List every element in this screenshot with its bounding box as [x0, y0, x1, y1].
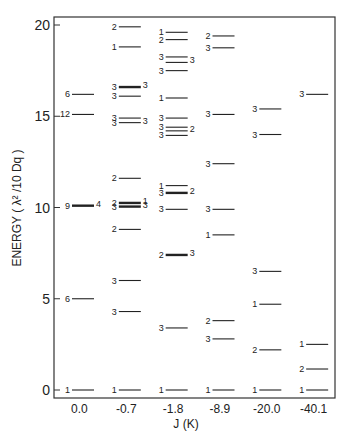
degeneracy-label: 9: [65, 201, 70, 211]
energy-levels: 6129461213333332213323311233313323132323…: [60, 22, 328, 395]
level-column: 233331231: [205, 31, 234, 395]
degeneracy-label: 3: [159, 204, 164, 214]
degeneracy-label: 1: [159, 385, 164, 395]
degeneracy-label: 1: [112, 42, 117, 52]
degeneracy-label: 3: [159, 66, 164, 76]
degeneracy-label: 1: [159, 93, 164, 103]
degeneracy-label: 2: [252, 345, 257, 355]
degeneracy-label: 3: [112, 276, 117, 286]
degeneracy-label: 3: [190, 55, 195, 65]
degeneracy-label: 3: [190, 248, 195, 258]
energy-level-chart: 05101520 6129461213333332213323311233313…: [0, 0, 350, 442]
x-tick-label: -1.8: [163, 402, 184, 416]
degeneracy-label: 3: [205, 204, 210, 214]
degeneracy-label: 2: [112, 173, 117, 183]
degeneracy-label: 2: [190, 186, 195, 196]
degeneracy-label: 3: [252, 130, 257, 140]
degeneracy-label: 3: [159, 188, 164, 198]
degeneracy-label: 6: [65, 89, 70, 99]
degeneracy-label: 3: [112, 202, 117, 212]
x-axis-label: J (K): [173, 417, 198, 431]
degeneracy-label: 3: [112, 91, 117, 101]
y-tick-label: 10: [34, 200, 50, 216]
x-tick-label: -8.9: [210, 402, 231, 416]
degeneracy-label: 3: [205, 334, 210, 344]
degeneracy-label: 2: [190, 124, 195, 134]
degeneracy-label: 2: [205, 31, 210, 41]
degeneracy-label: 1: [205, 385, 210, 395]
degeneracy-label: 3: [159, 52, 164, 62]
degeneracy-label: 1: [299, 385, 304, 395]
degeneracy-label: 3: [205, 109, 210, 119]
degeneracy-label: 3: [159, 323, 164, 333]
level-column: 3121: [299, 89, 328, 395]
y-tick-label: 5: [42, 291, 50, 307]
degeneracy-label: 2: [205, 316, 210, 326]
degeneracy-label: 12: [60, 109, 70, 119]
degeneracy-label: 3: [252, 266, 257, 276]
y-axis-label: ENERGY ( λ² /10 Dq ): [10, 149, 24, 266]
degeneracy-label: 3: [143, 200, 148, 210]
level-column: 333121: [252, 104, 281, 395]
degeneracy-label: 1: [112, 385, 117, 395]
level-column: 6129461: [60, 89, 101, 395]
degeneracy-label: 1: [65, 385, 70, 395]
y-tick-label: 15: [34, 108, 50, 124]
degeneracy-label: 3: [205, 43, 210, 53]
x-tick-label: 0.0: [71, 402, 88, 416]
degeneracy-label: 3: [159, 130, 164, 140]
degeneracy-label: 2: [159, 35, 164, 45]
degeneracy-label: 1: [252, 385, 257, 395]
degeneracy-label: 2: [159, 250, 164, 260]
degeneracy-label: 3: [299, 89, 304, 99]
degeneracy-label: 3: [143, 116, 148, 126]
degeneracy-label: 3: [143, 80, 148, 90]
y-tick-label: 0: [42, 382, 50, 398]
degeneracy-label: 6: [65, 294, 70, 304]
degeneracy-label: 2: [112, 22, 117, 32]
degeneracy-label: 3: [252, 104, 257, 114]
degeneracy-label: 2: [112, 224, 117, 234]
x-tick-label: -0.7: [116, 402, 137, 416]
degeneracy-label: 2: [299, 364, 304, 374]
y-axis: 05101520: [34, 17, 60, 398]
x-tick-label: -20.0: [253, 402, 281, 416]
x-tick-label: -40.1: [300, 402, 328, 416]
level-column: 21333333221332331: [112, 22, 148, 395]
level-column: 123331332313232331: [159, 27, 195, 395]
y-tick-label: 20: [34, 17, 50, 33]
degeneracy-label: 1: [252, 299, 257, 309]
degeneracy-label: 3: [112, 307, 117, 317]
degeneracy-label: 1: [205, 230, 210, 240]
degeneracy-label: 3: [205, 159, 210, 169]
degeneracy-label: 3: [112, 118, 117, 128]
degeneracy-label: 1: [299, 339, 304, 349]
x-axis: 0.0-0.7-1.8-8.9-20.0-40.1: [71, 402, 328, 416]
degeneracy-label: 4: [96, 199, 101, 209]
